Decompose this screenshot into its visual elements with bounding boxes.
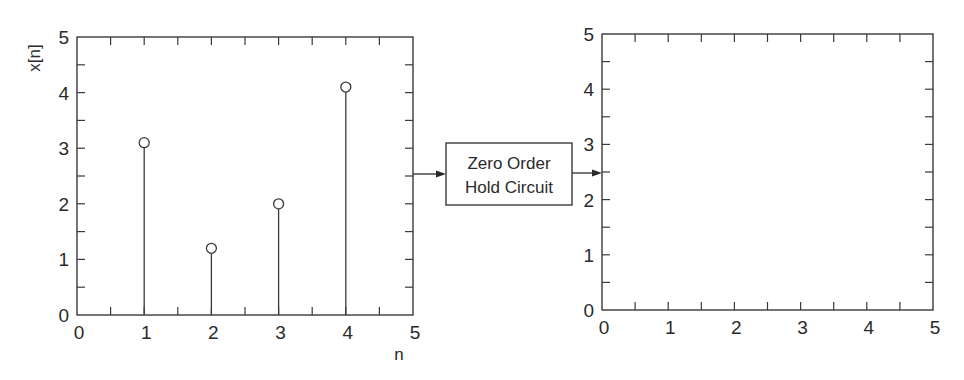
output-plot-y-tick-label: 3 [583,134,594,155]
input-arrow [413,171,446,178]
stem-marker-circle-icon [341,82,351,92]
input-plot-x-tick-label: 5 [410,322,421,343]
input-plot-frame [77,37,413,315]
input-plot-x-tick-label: 2 [208,322,219,343]
input-plot-y-tick-labels: 012345 [58,27,69,326]
stem-marker-circle-icon [274,199,284,209]
diagram-canvas: 012345 012345 n x[n] Zero Order Hold Cir… [0,0,964,380]
output-plot-y-tick-label: 1 [583,245,594,266]
output-plot-y-tick-label: 5 [583,24,594,45]
input-plot-x-tick-label: 4 [343,322,354,343]
input-plot-stems [139,82,351,315]
input-plot-y-tick-label: 2 [58,194,69,215]
output-plot-y-tick-label: 4 [583,79,594,100]
output-empty-plot: 012345 012345 [583,24,940,338]
input-plot-x-tick-label: 0 [74,322,85,343]
output-plot-y-tick-label: 0 [583,300,594,321]
output-plot-frame [602,34,933,310]
output-arrow [572,170,602,177]
output-plot-x-tick-label: 4 [864,317,875,338]
input-plot-y-axis-title: x[n] [25,44,44,71]
output-plot-x-tick-label: 5 [930,317,941,338]
input-plot-x-axis-title: n [394,345,403,364]
stem-marker-circle-icon [206,243,216,253]
input-plot-ticks [77,37,413,315]
output-plot-x-tick-label: 2 [731,317,742,338]
input-plot-y-tick-label: 0 [58,305,69,326]
input-plot-y-tick-label: 3 [58,138,69,159]
output-plot-y-tick-label: 2 [583,190,594,211]
input-plot-x-tick-label: 1 [141,322,152,343]
input-plot-x-tick-label: 3 [275,322,286,343]
block-label-line1: Zero Order [467,154,550,173]
input-stem-plot: 012345 012345 n x[n] [25,27,420,364]
output-plot-x-tick-label: 0 [599,317,610,338]
zoh-diagram: 012345 012345 n x[n] Zero Order Hold Cir… [0,0,964,380]
input-plot-y-tick-label: 5 [58,27,69,48]
zero-order-hold-block: Zero Order Hold Circuit [446,143,572,205]
arrow-head-icon [436,171,446,178]
stem-marker-circle-icon [139,138,149,148]
arrow-head-icon [592,170,602,177]
output-plot-ticks [602,34,933,310]
block-label-line2: Hold Circuit [465,178,553,197]
input-plot-y-tick-label: 1 [58,249,69,270]
output-plot-x-tick-labels: 012345 [599,317,941,338]
input-plot-y-tick-label: 4 [58,83,69,104]
output-plot-x-tick-label: 1 [665,317,676,338]
input-plot-x-tick-labels: 012345 [74,322,421,343]
output-plot-x-tick-label: 3 [797,317,808,338]
